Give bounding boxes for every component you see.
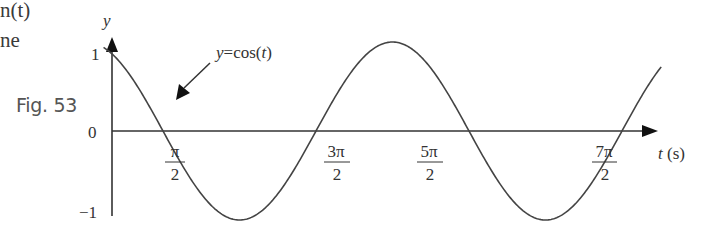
y-tick-0: 0: [88, 123, 97, 142]
x-axis-arrow-icon: [642, 125, 658, 137]
annotation-arrowhead-icon: [176, 84, 190, 100]
svg-text:2: 2: [171, 165, 180, 184]
x-tick-pi-over-2: π 2: [165, 142, 185, 184]
svg-text:7π: 7π: [595, 142, 613, 161]
x-axis-label: t (s): [658, 144, 685, 163]
x-tick-3pi-over-2: 3π 2: [324, 142, 350, 184]
annotation-arrow-line: [184, 63, 210, 88]
y-axis-label: y: [101, 11, 111, 30]
svg-text:3π: 3π: [327, 142, 345, 161]
svg-text:2: 2: [601, 165, 610, 184]
svg-text:π: π: [171, 142, 180, 161]
annotation-label: y=cos(t): [214, 43, 272, 62]
x-tick-5pi-over-2: 5π 2: [417, 142, 443, 184]
svg-text:2: 2: [426, 165, 435, 184]
svg-text:5π: 5π: [420, 142, 438, 161]
y-tick-1: 1: [91, 45, 100, 64]
y-tick-neg1: −1: [79, 203, 97, 222]
cosine-chart: y 1 0 −1 y=cos(t) π 2 3π 2 5π 2 7π 2 t (…: [0, 0, 717, 240]
svg-text:2: 2: [333, 165, 342, 184]
